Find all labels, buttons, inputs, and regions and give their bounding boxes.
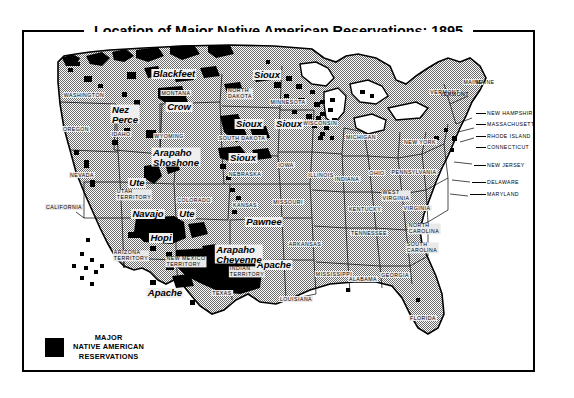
usa-map-svg — [24, 32, 533, 370]
legend-caption: MAJOR NATIVE AMERICAN RESERVATIONS — [73, 333, 144, 361]
leader-line-delaware — [472, 182, 486, 183]
leader-line-rhode-island — [476, 136, 486, 137]
leader-line-new-jersey — [474, 165, 486, 166]
legend-swatch-reservation — [45, 338, 64, 357]
leader-line-new-hampshire — [476, 113, 486, 114]
map-legend: MAJOR NATIVE AMERICAN RESERVATIONS — [45, 333, 144, 361]
leader-line-maryland — [470, 194, 486, 195]
map-surface: WASHINGTONOREGONIDAHOMONTANANORTHDAKOTAS… — [24, 32, 533, 370]
leader-line-connecticut — [476, 147, 486, 148]
legend-line-1: MAJOR — [73, 333, 144, 342]
leader-line-massachusetts — [476, 124, 486, 125]
legend-line-3: RESERVATIONS — [73, 352, 144, 361]
map-figure: Location of Major Native American Reserv… — [0, 0, 574, 398]
legend-line-2: NATIVE AMERICAN — [73, 342, 144, 351]
